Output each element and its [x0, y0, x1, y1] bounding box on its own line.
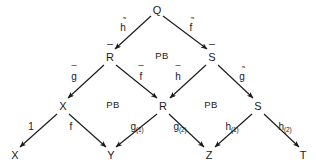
edge-label-g-sub-2: g(2): [174, 122, 187, 134]
edge-label-text: g: [239, 71, 245, 82]
diagram-edges-layer: [0, 0, 316, 166]
edge-label-identity: 1: [28, 122, 34, 132]
node-r-bar-label: R: [106, 51, 114, 63]
edge-sbar-to-s: [218, 65, 253, 98]
edge-label-h-sub-2: h(2): [279, 122, 292, 134]
edge-label-text: h: [120, 22, 126, 33]
node-t-bottom: T: [300, 150, 307, 161]
edge-label-h-bar: h̅: [175, 72, 181, 82]
edge-label-f-bar: f̅: [140, 72, 143, 82]
edge-rbar-to-r: [116, 65, 157, 98]
edge-x-to-ybot: [69, 114, 106, 147]
node-x-bottom: X: [11, 150, 18, 161]
node-q-label: Q: [153, 5, 162, 16]
node-t-bottom-label: T: [300, 150, 307, 161]
edge-label-subscript: (1): [136, 126, 143, 133]
pullback-label-right: PB: [204, 100, 217, 110]
node-s-mid: S: [254, 101, 261, 112]
node-s-mid-label: S: [254, 101, 261, 112]
node-s-bar-label: S: [208, 51, 215, 63]
node-s-bar: S̅: [208, 52, 215, 63]
edge-label-text: f: [140, 71, 143, 82]
edge-label-text: 1: [28, 122, 34, 132]
edge-label-g-sub-1: g(1): [131, 122, 144, 134]
edge-x-to-xbot: [20, 114, 57, 147]
edge-label-text: f: [70, 122, 73, 132]
edge-label-subscript: (1): [231, 126, 238, 133]
node-r-mid: R: [159, 101, 167, 112]
edge-label-f-tilde: f̃: [190, 23, 193, 33]
node-r-bar: R̅: [106, 52, 114, 63]
node-q: Q: [153, 5, 162, 16]
node-x-bottom-label: X: [11, 150, 18, 161]
node-z-bottom-label: Z: [206, 150, 213, 161]
edge-label-subscript: (2): [284, 126, 291, 133]
edge-label-f: f: [70, 122, 73, 132]
edge-label-text: h: [175, 71, 181, 82]
node-r-mid-label: R: [159, 101, 167, 112]
edge-q-to-sbar: [163, 16, 207, 49]
edge-label-g-tilde: g̃: [239, 72, 245, 82]
node-y-bottom: Y: [107, 150, 114, 161]
edge-label-g-bar: g̅: [71, 72, 77, 82]
pullback-label-left: PB: [106, 100, 119, 110]
pullback-label-top: PB: [155, 51, 168, 61]
edge-label-h-tilde: h̃: [120, 23, 126, 33]
edge-label-text: f: [190, 22, 193, 33]
edge-label-text: g: [71, 71, 77, 82]
node-z-bottom: Z: [206, 150, 213, 161]
edge-label-subscript: (2): [179, 126, 186, 133]
node-y-bottom-label: Y: [107, 150, 114, 161]
edge-label-h-sub-1: h(1): [226, 122, 239, 134]
node-x-mid-label: X: [59, 101, 66, 112]
node-x-mid: X: [59, 101, 66, 112]
commutative-diagram: Q R̅ S̅ X R S X Y Z T h̃ f̃ g̅ f̅ h̅: [0, 0, 316, 166]
